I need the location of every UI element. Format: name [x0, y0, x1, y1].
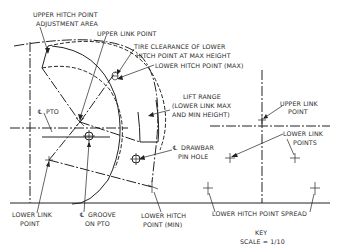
lower-link-point-right-marker — [290, 153, 300, 163]
label-drawbar: ℄ DRAWBAR PIN HOLE — [172, 144, 214, 160]
label-lower-hitch-spread: LOWER HITCH POINT SPREAD — [212, 210, 307, 217]
label-scale: SCALE = 1/10 — [240, 238, 285, 245]
hitch-spread-left-marker — [203, 182, 213, 195]
label-groove-pto: ℄ GROOVE ON PTO — [79, 211, 116, 227]
hitch-spread-right-marker — [310, 182, 320, 195]
lift-range-region — [138, 100, 159, 142]
svg-text:DRAWBAR: DRAWBAR — [181, 144, 214, 151]
centerline-symbol: ℄ — [79, 211, 85, 218]
crosshair-circle-icon — [83, 130, 95, 142]
lower-link-line — [49, 160, 152, 187]
label-tire-clearance-1: TIRE CLEARANCE OF LOWER — [133, 43, 226, 50]
label-lower-link-points-1: LOWER LINK — [283, 130, 324, 137]
lower-link-point-left-marker — [225, 153, 235, 163]
label-upper-hitch-adjust-2: ADJUSTMENT AREA — [36, 20, 98, 28]
svg-text:ON PTO: ON PTO — [85, 220, 110, 227]
label-pto: ℄ PTO — [37, 108, 59, 115]
svg-text:GROOVE: GROOVE — [88, 211, 116, 218]
centerline-symbol: ℄ — [37, 108, 43, 115]
label-tire-clearance-2: HITCH POINT AT MAX HEIGHT — [136, 52, 231, 59]
label-upper-link-right-2: POINT — [288, 108, 308, 115]
label-lower-hitch-min-2: POINT (MIN) — [143, 221, 182, 228]
lower-hitch-min-marker — [148, 181, 158, 193]
inner-arc-dashed — [42, 66, 122, 168]
label-lower-hitch-max: LOWER HITCH POINT (MAX) — [155, 62, 243, 69]
svg-text:PIN HOLE: PIN HOLE — [178, 153, 208, 160]
top-link-line-2 — [80, 70, 117, 122]
label-lower-link-points-2: POINTS — [293, 139, 317, 146]
label-upper-link-right-1: UPPER LINK — [280, 100, 319, 107]
label-key: KEY — [255, 229, 267, 236]
label-lift-range-1: LIFT RANGE — [183, 93, 221, 100]
centerline-symbol: ℄ — [172, 144, 178, 151]
label-upper-hitch-adjust-1: UPPER HITCH POINT — [33, 11, 98, 18]
hitch-diagram: UPPER HITCH POINT ADJUSTMENT AREA UPPER … — [0, 0, 341, 252]
label-upper-link-point-left: UPPER LINK POINT — [97, 30, 157, 37]
label-lower-hitch-min-1: LOWER HITCH — [141, 212, 186, 219]
label-lift-range-2: (LOWER LINK MAX — [172, 102, 232, 109]
svg-text:PTO: PTO — [46, 108, 59, 115]
label-lower-link-point-2: POINT — [20, 220, 40, 227]
label-lower-link-point-1: LOWER LINK — [12, 211, 53, 218]
label-lift-range-3: AND MIN HEIGHT) — [172, 111, 230, 118]
